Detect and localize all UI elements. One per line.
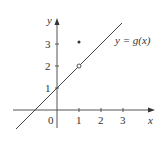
x-tick-label-3: 3 xyxy=(120,114,126,126)
y-tick-label-3: 3 xyxy=(45,38,51,50)
filled-point xyxy=(78,41,81,44)
x-tick-label-2: 2 xyxy=(98,114,104,126)
x-axis-arrow-icon xyxy=(148,108,155,113)
open-point xyxy=(77,64,81,68)
function-label: y = g(x) xyxy=(114,34,151,47)
function-line xyxy=(16,23,122,129)
origin-label: 0 xyxy=(48,114,54,126)
graph-figure: 0 1 2 3 1 2 3 x y y = g(x) xyxy=(0,0,163,141)
x-axis-label: x xyxy=(147,114,153,126)
x-tick-label-1: 1 xyxy=(76,114,82,126)
y-tick-label-2: 2 xyxy=(45,60,51,72)
y-tick-label-1: 1 xyxy=(45,82,51,94)
y-axis-label: y xyxy=(46,14,52,26)
y-axis-arrow-icon xyxy=(55,18,60,25)
